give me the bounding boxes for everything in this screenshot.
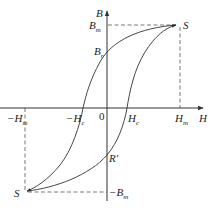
r-prime-label: R′ <box>109 153 118 164</box>
neg-bm-label: −Bm <box>109 187 128 201</box>
origin-label: 0 <box>99 111 105 122</box>
neg-hm-label: −Hm <box>7 113 27 127</box>
hm-label: Hm <box>175 113 188 127</box>
h-axis-label: H <box>199 113 207 124</box>
hysteresis-diagram <box>0 0 216 212</box>
hc-label: Hc <box>128 113 139 127</box>
b-axis-label: B <box>96 8 103 19</box>
neg-hc-label: −Hc <box>66 113 85 127</box>
bm-label: Bm <box>89 20 101 34</box>
s-bottom-label: S <box>14 188 20 199</box>
br-label: Br <box>94 46 103 60</box>
s-top-label: S <box>183 20 189 31</box>
